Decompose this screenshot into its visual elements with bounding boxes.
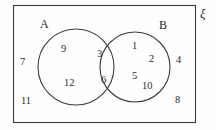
element-outside-4: 4 xyxy=(176,55,181,66)
element-b-only-5: 5 xyxy=(132,71,137,82)
element-outside-8: 8 xyxy=(175,95,180,106)
element-outside-11: 11 xyxy=(21,96,31,107)
element-intersection-3: 3 xyxy=(97,49,102,60)
element-b-only-2: 2 xyxy=(149,54,154,65)
set-b-label: B xyxy=(159,19,167,31)
element-a-only-9: 9 xyxy=(61,44,66,55)
element-b-only-1: 1 xyxy=(132,41,137,52)
set-a-circle xyxy=(38,29,114,105)
set-a-label: A xyxy=(40,18,49,30)
element-intersection-6: 6 xyxy=(101,75,106,86)
element-b-only-10: 10 xyxy=(142,81,153,92)
venn-diagram-canvas: A B ξ 9 12 3 6 1 2 5 10 7 11 4 8 xyxy=(0,0,216,130)
element-outside-7: 7 xyxy=(20,57,25,68)
universal-set-label: ξ xyxy=(200,7,206,20)
venn-diagram-svg xyxy=(0,0,216,130)
element-a-only-12: 12 xyxy=(64,78,75,89)
